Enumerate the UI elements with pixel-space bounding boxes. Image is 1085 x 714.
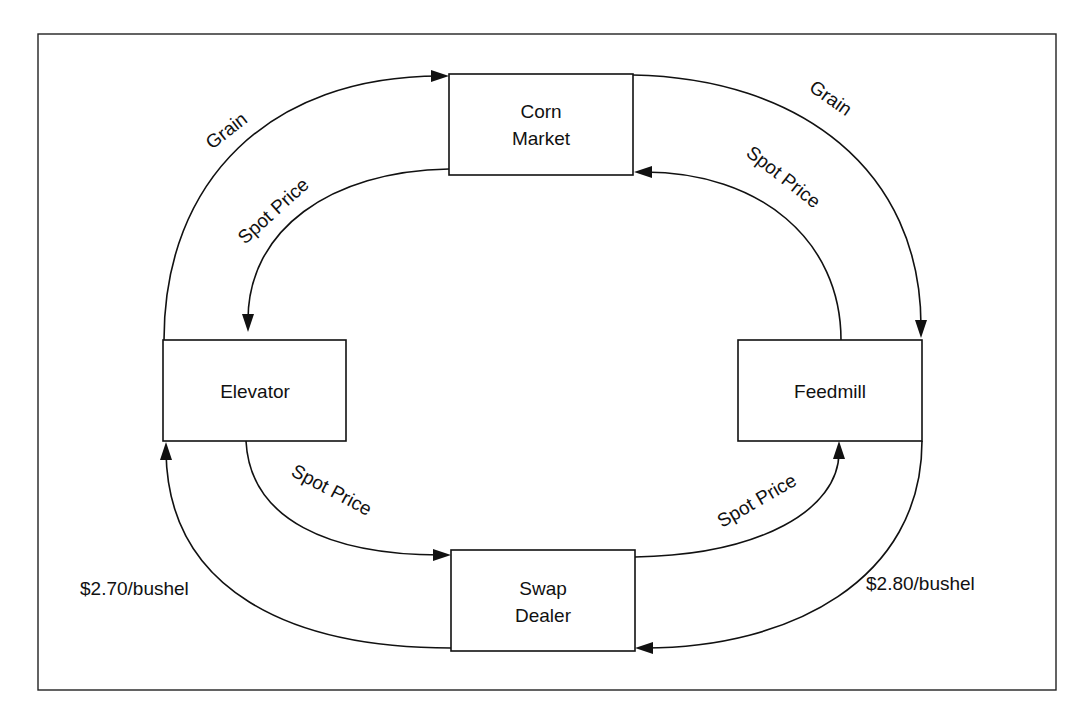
arrow-head-icon [833, 441, 845, 459]
arrow-head-icon [242, 314, 254, 332]
node-label: Corn [520, 101, 561, 122]
node-swap-dealer: Swap Dealer [451, 550, 635, 651]
edge-label-price-right: $2.80/bushel [866, 573, 975, 594]
edge-label-spot-bottom-left: Spot Price [288, 460, 375, 520]
edge-label-grain-right: Grain [806, 76, 856, 120]
arrow-head-icon [433, 549, 451, 561]
node-label: Elevator [220, 381, 290, 402]
edge-label-price-left: $2.70/bushel [80, 578, 189, 599]
node-feedmill: Feedmill [738, 340, 922, 441]
edge-label-grain-left: Grain [202, 108, 252, 153]
edge-corn-to-feedmill-grain [633, 75, 927, 338]
node-label: Feedmill [794, 381, 866, 402]
arrow-head-icon [635, 642, 653, 654]
edge-label-spot-top-right: Spot Price [743, 142, 825, 213]
arrow-head-icon [431, 70, 449, 82]
edge-elevator-to-corn-grain [164, 70, 449, 340]
node-label: Dealer [515, 605, 572, 626]
edge-feedmill-to-swap-price [635, 441, 922, 654]
edge-label-spot-top-left: Spot Price [234, 174, 313, 248]
edge-corn-to-elevator-spot [242, 169, 449, 332]
swap-diagram: Corn Market Elevator Feedmill Swap Deale… [0, 0, 1085, 714]
arrow-head-icon [160, 442, 172, 460]
arrow-head-icon [915, 320, 927, 338]
edge-label-spot-bottom-right: Spot Price [714, 469, 800, 531]
arrow-head-icon [634, 166, 652, 178]
node-label: Market [512, 128, 571, 149]
node-elevator: Elevator [163, 340, 346, 441]
node-corn-market: Corn Market [449, 74, 633, 175]
node-label: Swap [519, 578, 567, 599]
